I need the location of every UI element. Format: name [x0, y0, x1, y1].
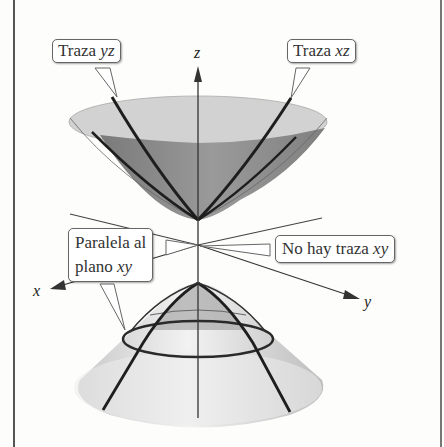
callout-variable: xz: [335, 41, 349, 60]
y-axis-label: y: [364, 293, 371, 311]
callout-variable: yz: [100, 41, 114, 60]
callout-traza-yz: Traza yz: [52, 39, 121, 63]
callout-paralela-plano-xy: Paralela al plano xy: [68, 228, 153, 282]
callout-line-2: plano xy: [75, 255, 146, 279]
callout-line-1: Paralela al: [75, 231, 146, 255]
callout-text: Traza: [293, 41, 335, 60]
z-axis-label: z: [194, 44, 200, 62]
callout-no-hay-traza-xy: No hay traza xy: [275, 235, 395, 263]
hyperboloid-diagram: [0, 0, 444, 447]
callout-text: Traza: [58, 41, 100, 60]
callout-text: No hay traza: [282, 239, 373, 258]
callout-text: plano: [75, 257, 117, 276]
callout-variable: xy: [117, 257, 132, 276]
callout-variable: xy: [373, 239, 388, 258]
callout-traza-xz: Traza xz: [287, 39, 356, 63]
x-axis-label: x: [33, 282, 40, 300]
